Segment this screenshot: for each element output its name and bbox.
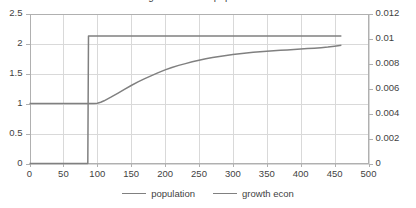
x-axis-tick-label: 500 — [349, 169, 389, 179]
y-axis-left-tick-label: 2 — [0, 38, 23, 48]
y-axis-right-tick-label: 0 — [376, 158, 416, 168]
y-axis-right-tick-label: 0.012 — [376, 8, 416, 18]
legend-item[interactable]: growth econ — [213, 188, 294, 199]
y-axis-left-tick-label: 1 — [0, 98, 23, 108]
y-axis-right-tick-label: 0.006 — [376, 83, 416, 93]
legend-label: population — [151, 188, 195, 199]
y-axis-left-tick-label: 1.5 — [0, 68, 23, 78]
legend-line-icon — [122, 193, 146, 194]
y-axis-left-tick-label: 0.5 — [0, 128, 23, 138]
y-axis-right-tick-label: 0.004 — [376, 108, 416, 118]
y-axis-left-tick-label: 0 — [0, 158, 23, 168]
chart-container: growth econ e popolazione 00.511.522.500… — [0, 0, 416, 208]
y-axis-right-tick-label: 0.01 — [376, 33, 416, 43]
y-axis-right-tick-label: 0.002 — [376, 133, 416, 143]
legend-line-icon — [213, 193, 237, 194]
y-axis-left-tick-label: 2.5 — [0, 8, 23, 18]
legend-label: growth econ — [242, 188, 294, 199]
legend-item[interactable]: population — [122, 188, 195, 199]
chart-legend: populationgrowth econ — [0, 188, 416, 199]
y-axis-right-tick-label: 0.008 — [376, 58, 416, 68]
